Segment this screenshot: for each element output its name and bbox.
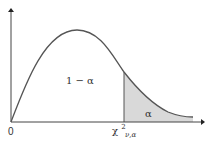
critical-value-subscript: ν,α (125, 131, 136, 139)
origin-label: 0 (8, 126, 14, 137)
critical-value-superscript: 2 (121, 123, 125, 131)
y-axis-arrow-icon (8, 8, 14, 12)
body-area-label: 1 − α (66, 75, 94, 86)
density-curve (11, 30, 193, 122)
critical-value-base: χ (112, 125, 118, 136)
tail-area-label: α (145, 108, 152, 119)
tail-area-shade (124, 72, 193, 122)
chi-squared-diagram: 0 1 − α α χ 2 ν,α (0, 0, 210, 143)
critical-value-label: χ 2 ν,α (112, 120, 136, 139)
x-axis-arrow-icon (201, 119, 205, 125)
